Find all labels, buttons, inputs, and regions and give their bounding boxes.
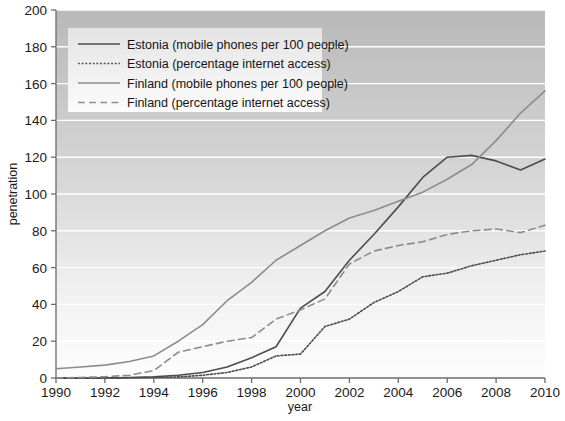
y-tick-label: 60 [32, 261, 47, 276]
y-tick-label: 180 [24, 40, 47, 55]
y-tick-label: 160 [24, 77, 47, 92]
y-tick-label: 200 [24, 3, 47, 18]
x-tick-label: 1994 [139, 385, 170, 400]
x-axis-tick-labels: 1990199219941996199820002002200420062008… [41, 385, 560, 400]
chart-container: 020406080100120140160180200 199019921994… [0, 0, 565, 421]
x-tick-label: 1992 [90, 385, 120, 400]
x-tick-label: 1990 [41, 385, 71, 400]
x-tick-label: 2000 [285, 385, 315, 400]
x-tick-label: 2006 [432, 385, 462, 400]
y-tick-label: 0 [39, 371, 47, 386]
y-tick-label: 120 [24, 150, 47, 165]
y-tick-label: 80 [32, 224, 47, 239]
x-tick-label: 2010 [530, 385, 560, 400]
x-tick-label: 2002 [334, 385, 364, 400]
y-tick-label: 140 [24, 113, 47, 128]
legend-label-2: Finland (mobile phones per 100 people) [127, 77, 348, 91]
x-axis-ticks [56, 378, 545, 383]
x-tick-label: 1996 [188, 385, 218, 400]
y-tick-label: 100 [24, 187, 47, 202]
penetration-line-chart: 020406080100120140160180200 199019921994… [0, 0, 565, 421]
x-tick-label: 1998 [237, 385, 267, 400]
y-tick-label: 20 [32, 334, 47, 349]
y-axis-tick-labels: 020406080100120140160180200 [24, 3, 47, 386]
x-tick-label: 2008 [481, 385, 511, 400]
x-tick-label: 2004 [383, 385, 414, 400]
y-axis-title: penetration [6, 163, 20, 226]
legend-label-1: Estonia (percentage internet access) [127, 57, 331, 71]
chart-legend: Estonia (mobile phones per 100 people)Es… [68, 28, 349, 112]
y-tick-label: 40 [32, 297, 47, 312]
y-axis-ticks [51, 10, 56, 378]
legend-label-3: Finland (percentage internet access) [127, 96, 330, 110]
x-axis-title: year [288, 400, 312, 414]
legend-label-0: Estonia (mobile phones per 100 people) [127, 38, 349, 52]
